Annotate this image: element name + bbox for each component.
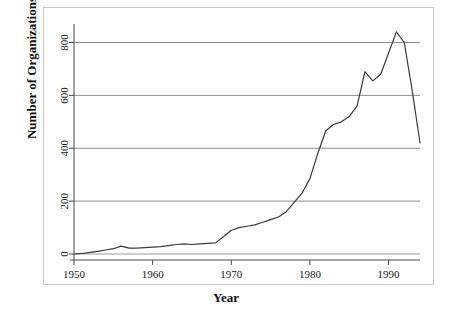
chart-figure: Number of Organizations Year 02004006008… [0,0,452,321]
y-axis-title: Number of Organizations [24,0,40,163]
plot-frame [43,7,434,285]
y-axis-title-container: Number of Organizations [0,0,40,300]
x-axis-title: Year [0,290,452,306]
